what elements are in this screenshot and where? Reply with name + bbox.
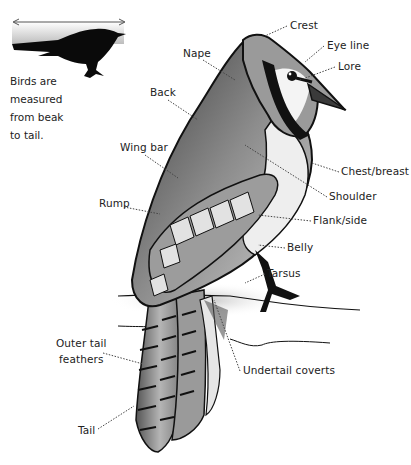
- bird-anatomy-diagram: Birds are measured from beak to tail. Cr…: [0, 0, 411, 465]
- label-flank-side: Flank/side: [313, 214, 367, 227]
- label-tail: Tail: [78, 424, 95, 437]
- label-belly: Belly: [287, 241, 313, 254]
- label-crest: Crest: [290, 19, 318, 32]
- label-outer-tail-line: Outer tail: [56, 337, 107, 350]
- label-undertail-coverts: Undertail coverts: [243, 364, 335, 377]
- label-outer-tail-feathers: Outer tail feathers: [56, 337, 107, 366]
- caption-line: from beak: [10, 108, 90, 126]
- label-back: Back: [150, 86, 176, 99]
- inset-silhouette: [12, 19, 126, 78]
- tail: [136, 290, 228, 452]
- label-outer-tail-line: feathers: [56, 353, 107, 366]
- label-nape: Nape: [183, 47, 211, 60]
- label-eye-line: Eye line: [327, 39, 369, 52]
- caption-line: Birds are: [10, 72, 90, 90]
- label-lore: Lore: [338, 60, 361, 73]
- caption-line: measured: [10, 90, 90, 108]
- inset-caption: Birds are measured from beak to tail.: [10, 72, 90, 144]
- label-rump: Rump: [99, 197, 130, 210]
- label-tarsus: Tarsus: [267, 267, 301, 280]
- label-chest-breast: Chest/breast: [341, 165, 409, 178]
- label-shoulder: Shoulder: [329, 190, 377, 203]
- caption-line: to tail.: [10, 126, 90, 144]
- label-wing-bar: Wing bar: [120, 141, 168, 154]
- eye: [287, 71, 297, 81]
